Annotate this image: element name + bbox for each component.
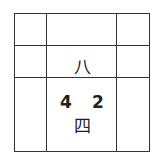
label-bottom: 四 [70, 118, 94, 135]
grid-hline-2 [14, 77, 150, 78]
label-num-right: 2 [91, 94, 105, 111]
label-top: 八 [70, 59, 94, 76]
label-num-left: 4 [59, 94, 73, 111]
grid-vline-2 [116, 13, 117, 152]
grid-vline-1 [46, 13, 47, 152]
grid-hline-1 [14, 45, 150, 46]
